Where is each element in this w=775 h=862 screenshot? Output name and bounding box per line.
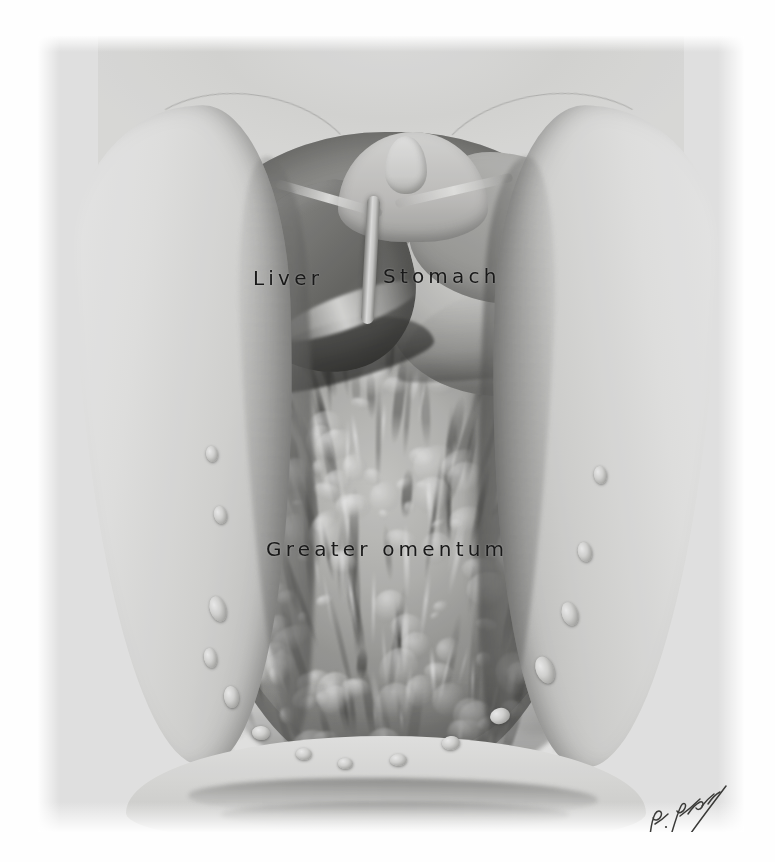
omentum-fat-tag xyxy=(338,758,353,769)
artist-signature xyxy=(642,784,738,832)
label-greater-omentum: Greater omentum xyxy=(266,537,508,561)
suprapubic-fold-secondary xyxy=(220,802,570,828)
label-stomach: Stomach xyxy=(383,264,501,288)
page-canvas: Liver Stomach Greater omentum xyxy=(0,0,775,862)
label-liver: Liver xyxy=(253,266,323,290)
anatomical-plate: Liver Stomach Greater omentum xyxy=(38,36,744,832)
